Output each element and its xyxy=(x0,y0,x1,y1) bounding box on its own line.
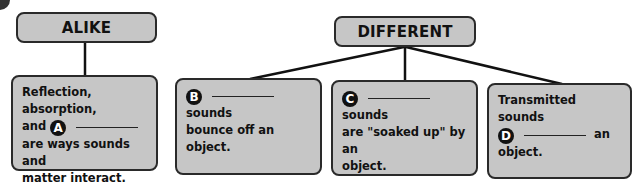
card-c-line2: are "soaked up" by an xyxy=(342,124,468,158)
alike-and: and xyxy=(22,119,46,133)
card-c-line3: object. xyxy=(342,158,468,175)
badge-d-icon: D xyxy=(498,128,514,144)
different-title: DIFFERENT xyxy=(357,23,452,41)
card-d-line3: object. xyxy=(498,144,622,161)
blank-a[interactable] xyxy=(76,127,138,128)
alike-line2: and A xyxy=(22,118,148,136)
different-card-b: B sounds bounce off an object. xyxy=(175,78,322,175)
card-d-line2: D an xyxy=(498,126,622,144)
blank-b[interactable] xyxy=(212,96,274,97)
card-d-line1: Transmitted sounds xyxy=(498,92,622,126)
alike-line1: Reflection, absorption, xyxy=(22,84,148,118)
alike-title: ALIKE xyxy=(62,19,112,37)
card-c-line1: C sounds xyxy=(342,89,468,124)
alike-line4: matter interact. xyxy=(22,170,148,184)
blank-c[interactable] xyxy=(368,98,430,99)
different-card-d: Transmitted sounds D an object. xyxy=(487,83,632,179)
card-d-after: an xyxy=(594,127,610,141)
alike-card: Reflection, absorption, and A are ways s… xyxy=(11,75,158,171)
badge-c-icon: C xyxy=(342,91,358,107)
card-c-after: sounds xyxy=(342,108,388,122)
badge-b-icon: B xyxy=(186,89,202,105)
badge-a-icon: A xyxy=(50,120,66,136)
blank-d[interactable] xyxy=(524,135,586,136)
alike-line3: are ways sounds and xyxy=(22,136,148,170)
card-b-line2: bounce off an object. xyxy=(186,122,312,156)
card-b-after: sounds xyxy=(186,106,232,120)
card-b-line1: B sounds xyxy=(186,87,312,122)
alike-header: ALIKE xyxy=(16,12,157,43)
different-header: DIFFERENT xyxy=(334,16,476,47)
different-card-c: C sounds are "soaked up" by an object. xyxy=(331,80,478,176)
